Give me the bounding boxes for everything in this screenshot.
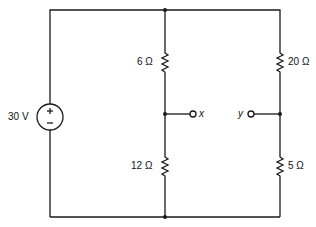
source-label: 30 V: [8, 112, 29, 122]
resistor-5-icon: [277, 155, 283, 177]
junction-dot: [163, 8, 167, 12]
junction-dot: [163, 112, 167, 116]
resistor-6-icon: [162, 51, 168, 72]
junction-dot: [278, 112, 282, 116]
resistor-12-icon: [162, 155, 168, 177]
voltage-source-icon: [37, 104, 63, 130]
resistor-20-label: 20 Ω: [288, 57, 309, 67]
junction-dot: [163, 215, 167, 219]
terminal-x-icon[interactable]: [190, 111, 196, 117]
terminal-x-label: x: [199, 109, 204, 119]
terminal-y-label: y: [238, 109, 243, 119]
resistor-12-label: 12 Ω: [131, 161, 152, 171]
resistor-20-icon: [277, 51, 283, 73]
resistor-5-label: 5 Ω: [288, 161, 304, 171]
resistor-6-label: 6 Ω: [137, 57, 153, 67]
terminal-y-icon[interactable]: [248, 111, 254, 117]
circuit-diagram: [0, 0, 316, 227]
